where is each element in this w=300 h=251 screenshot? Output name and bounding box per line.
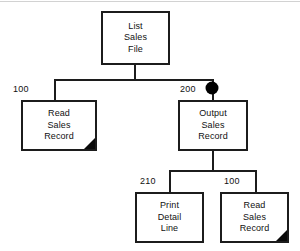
node-text-line: Detail [158,212,182,224]
node-text-line: Print [160,200,179,212]
node-text-line: Record [44,131,74,143]
node-read-sales-record-bottom[interactable]: Read Sales Record [220,192,289,243]
node-text-line: Read [48,108,70,120]
loop-marker-icon [206,82,219,95]
structure-chart-canvas: List Sales File 100 Read Sales Record 20… [0,0,300,251]
node-list-sales-file[interactable]: List Sales File [101,11,170,65]
node-print-detail-line[interactable]: Print Detail Line [135,192,204,243]
node-number-label-100-bottom: 100 [224,176,240,186]
node-text-line: Record [240,223,270,235]
predefined-module-corner-icon [84,138,95,149]
node-text-line: Line [161,223,178,235]
node-text-line: File [128,44,143,56]
node-text-line: Sales [47,120,70,132]
node-text-line: Output [199,108,227,120]
node-read-sales-record-left[interactable]: Read Sales Record [21,100,97,151]
node-output-sales-record[interactable]: Output Sales Record [178,100,248,151]
node-text-line: Record [198,131,228,143]
node-number-label-200: 200 [180,84,196,94]
node-number-label-210: 210 [140,176,156,186]
node-text-line: Read [244,200,266,212]
node-text-line: Sales [124,32,147,44]
predefined-module-corner-icon [276,230,287,241]
node-text-line: Sales [243,212,266,224]
node-number-label-100-left: 100 [13,84,29,94]
node-text-line: Sales [201,120,224,132]
node-text-line: List [128,21,142,33]
